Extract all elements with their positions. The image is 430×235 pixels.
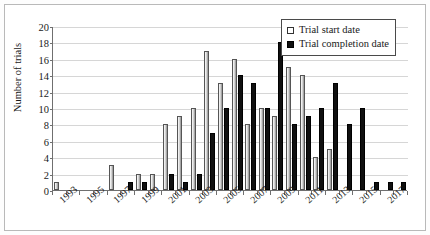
bar-completion (238, 75, 243, 190)
legend-label-start: Trial start date (299, 23, 360, 37)
y-tick-label: 10 (39, 104, 50, 115)
bar-completion (388, 182, 393, 190)
bar-group (394, 26, 408, 190)
bar-group (162, 26, 176, 190)
bar-start (259, 108, 264, 190)
bar-group (217, 26, 231, 190)
bar-start (327, 149, 332, 190)
legend-swatch-start-icon (287, 27, 294, 34)
y-tick-label: 14 (39, 71, 50, 82)
x-tick-mark (298, 191, 299, 195)
bar-group (67, 26, 81, 190)
x-tick-mark (270, 191, 271, 195)
x-tick-mark (189, 191, 190, 195)
x-tick-mark (352, 191, 353, 195)
y-tick-label: 16 (39, 54, 50, 65)
bar-start (136, 174, 141, 190)
legend-item-completion: Trial completion date (287, 37, 389, 51)
bar-completion (251, 83, 256, 190)
legend-item-start: Trial start date (287, 23, 389, 37)
bar-start (177, 116, 182, 190)
x-tick-mark (134, 191, 135, 195)
bar-start (300, 75, 305, 190)
chart-figure: Number of trials 02468101214161820 19931… (0, 0, 430, 235)
bar-start (272, 116, 277, 190)
bar-completion (319, 108, 324, 190)
bar-group (108, 26, 122, 190)
x-tick-mark (107, 191, 108, 195)
y-tick-label: 0 (44, 186, 49, 197)
bar-completion (265, 108, 270, 190)
y-tick-label: 6 (44, 136, 49, 147)
y-tick-label: 8 (44, 120, 49, 131)
legend-label-completion: Trial completion date (299, 37, 389, 51)
bar-start (218, 83, 223, 190)
bar-completion (224, 108, 229, 190)
bar-completion (347, 124, 352, 190)
x-tick-mark (52, 191, 53, 195)
bar-completion (360, 108, 365, 190)
y-tick-label: 12 (39, 87, 50, 98)
y-tick-label: 2 (44, 169, 49, 180)
y-tick-label: 18 (39, 38, 50, 49)
x-tick-mark (380, 191, 381, 195)
bar-group (121, 26, 135, 190)
bar-start (109, 165, 114, 190)
bar-start (54, 182, 59, 190)
bar-group (176, 26, 190, 190)
bar-completion (278, 42, 283, 190)
bar-group (53, 26, 67, 190)
bar-completion (197, 174, 202, 190)
bar-group (149, 26, 163, 190)
bar-group (135, 26, 149, 190)
bar-completion (169, 174, 174, 190)
bar-start (191, 108, 196, 190)
y-tick-label: 20 (39, 22, 50, 33)
legend-swatch-completion-icon (287, 41, 294, 48)
bar-group (244, 26, 258, 190)
bar-start (286, 67, 291, 190)
chart-legend: Trial start date Trial completion date (281, 19, 396, 56)
bar-completion (210, 133, 215, 190)
bar-group (258, 26, 272, 190)
bar-start (245, 124, 250, 190)
bar-completion (306, 116, 311, 190)
bar-group (94, 26, 108, 190)
y-tick-label: 4 (44, 153, 49, 164)
bar-group (203, 26, 217, 190)
bar-group (80, 26, 94, 190)
y-axis-title: Number of trials (12, 18, 23, 138)
bar-start (163, 124, 168, 190)
bar-start (232, 59, 237, 190)
bar-group (190, 26, 204, 190)
bar-completion (333, 83, 338, 190)
bar-group (231, 26, 245, 190)
bar-start (204, 51, 209, 190)
x-axis: 1993199519971999200120032005200720092011… (52, 191, 407, 235)
x-tick-mark (216, 191, 217, 195)
bar-completion (292, 124, 297, 190)
